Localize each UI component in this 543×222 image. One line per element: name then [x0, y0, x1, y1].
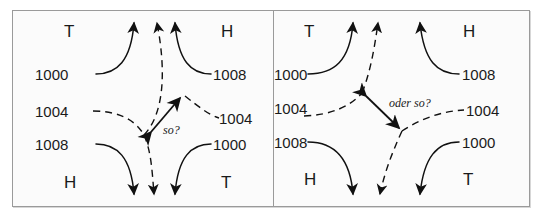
diagram-frame: T H H T 1000 1004 1008 1008 1004 1000 so…	[12, 10, 530, 207]
isobar-1008-top-right	[420, 23, 459, 74]
panel-right-label-bottom-left: H	[304, 171, 316, 188]
isobar-1004-left	[304, 93, 362, 116]
panel-right-label-top-left: T	[304, 23, 314, 40]
panel-right-isobar-label-left-mid: 1004	[274, 101, 307, 116]
panel-left-isobar-label-left-bottom: 1008	[35, 137, 68, 152]
panel-left-label-bottom-left: H	[64, 174, 76, 191]
panel-right-label-top-right: H	[463, 23, 475, 40]
panel-left-label-top-left: T	[64, 23, 74, 40]
panel-right-isobar-label-left-bottom: 1008	[274, 135, 307, 150]
isobar-1000-top-left	[308, 23, 353, 74]
panel-left-isobar-label-left-mid: 1004	[35, 104, 68, 119]
panel-left-label-bottom-right: T	[221, 174, 231, 191]
panel-right-isobar-label-right-bottom: 1000	[462, 135, 495, 150]
panel-right-annotation: oder so?	[389, 97, 431, 109]
isobar-1000-bottom-right	[175, 144, 211, 194]
panel-right-isobar-label-right-mid: 1004	[466, 103, 499, 118]
isobar-1004-bottom-branch	[144, 135, 154, 194]
panel-left-isobar-label-right-bottom: 1000	[213, 137, 246, 152]
panel-left-isobar-label-right-mid: 1004	[219, 111, 252, 126]
isobar-1004-top-branch	[144, 23, 162, 135]
isobar-1000-bottom-right	[420, 142, 459, 194]
panel-right-isobar-label-left-top: 1000	[274, 67, 307, 82]
isobar-1004-right	[402, 110, 464, 131]
panel-right-label-bottom-right: T	[463, 171, 473, 188]
panel-left-isobar-label-left-top: 1000	[35, 67, 68, 82]
panel-left-annotation: so?	[163, 124, 180, 136]
isobar-1004-left	[93, 111, 144, 135]
isobar-diagram-figure: T H H T 1000 1004 1008 1008 1004 1000 so…	[0, 0, 543, 222]
isobar-1008-top-right	[175, 23, 211, 74]
panel-left: T H H T 1000 1004 1008 1008 1004 1000 so…	[13, 11, 273, 206]
panel-left-isobar-label-right-top: 1008	[213, 67, 246, 82]
isobar-1004-top-branch	[362, 23, 378, 93]
isobar-1000-top-left	[96, 23, 134, 74]
isobar-1008-bottom-left	[96, 144, 134, 194]
isobar-1004-bottom-branch	[380, 131, 402, 194]
panel-left-label-top-right: H	[221, 23, 233, 40]
isobar-1004-right	[185, 96, 219, 118]
panel-right-isobar-label-right-top: 1008	[462, 67, 495, 82]
panel-right: T H H T 1000 1004 1008 1008 1004 1000 od…	[274, 11, 530, 206]
